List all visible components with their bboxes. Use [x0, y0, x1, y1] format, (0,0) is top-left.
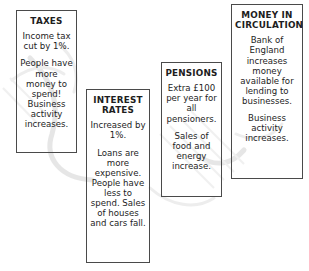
box-taxes-paragraph-1: Income tax cut by 1%.: [20, 31, 73, 51]
box-interest-rates-paragraph-2: Loans are more expensive. People have le…: [90, 148, 146, 229]
box-pensions-title: PENSIONS: [165, 68, 218, 78]
box-taxes-paragraph-2: People have more money to spend! Busines…: [20, 58, 73, 129]
box-pensions: PENSIONS Extra £100 per year for all pen…: [161, 62, 222, 197]
box-money-in-circulation-paragraph-2: Business activity increases.: [235, 113, 299, 143]
box-pensions-paragraph-2: Sales of food and energy increase.: [165, 131, 218, 172]
box-taxes-title: TAXES: [20, 16, 73, 26]
box-interest-rates: INTEREST RATES Increased by 1%. Loans ar…: [86, 89, 150, 263]
box-money-in-circulation-paragraph-1: Bank of England increases money availabl…: [235, 35, 299, 106]
box-interest-rates-paragraph-1: Increased by 1%.: [90, 120, 146, 140]
box-interest-rates-title: INTEREST RATES: [90, 95, 146, 115]
box-pensions-paragraph-1: Extra £100 per year for all pensioners.: [165, 83, 218, 124]
box-taxes: TAXES Income tax cut by 1%. People have …: [16, 10, 77, 153]
box-money-in-circulation-title: MONEY IN CIRCULATION: [235, 10, 299, 30]
box-money-in-circulation: MONEY IN CIRCULATION Bank of England inc…: [231, 4, 303, 179]
diagram-canvas: TAXES Income tax cut by 1%. People have …: [0, 0, 309, 271]
